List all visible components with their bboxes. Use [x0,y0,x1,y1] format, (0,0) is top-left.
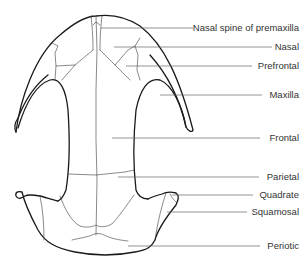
label-maxilla: Maxilla [269,89,299,100]
right-orbit-outline [134,80,186,199]
frontal-parietal-suture [68,170,134,175]
left-orbit-outline [18,80,69,201]
label-frontal: Frontal [269,132,299,143]
label-parietal: Parietal [267,171,299,182]
right-prefrontal-suture [115,38,140,80]
skull-diagram [0,0,304,268]
label-quadrate: Quadrate [259,189,299,200]
label-periotic: Periotic [267,240,299,251]
label-nasal: Nasal [275,41,299,52]
label-squamosal: Squamosal [251,206,299,217]
parietal-posterior-suture [60,195,134,227]
label-prefrontal: Prefrontal [258,60,299,71]
right-squamosal-suture [155,193,166,240]
periotic-marking [72,234,128,242]
label-nasal-spine: Nasal spine of premaxilla [193,22,299,33]
skull-outer-outline [16,15,193,132]
left-prefrontal-suture [52,43,75,80]
cranium-posterior-outline [16,192,179,255]
midline-suture [96,16,97,235]
